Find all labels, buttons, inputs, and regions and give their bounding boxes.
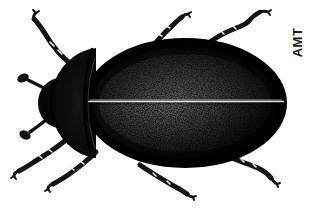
elytra [84, 39, 286, 167]
beetle-illustration-figure: AMT [0, 0, 317, 210]
beetle-drawing [0, 0, 317, 210]
